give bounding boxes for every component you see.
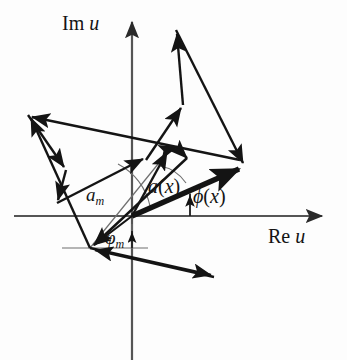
label-a-paren-open: ( bbox=[158, 175, 165, 197]
axis-label-real: Re u bbox=[268, 226, 305, 246]
chain-segment bbox=[176, 30, 243, 163]
axis-label-imaginary: Im u bbox=[62, 13, 99, 33]
label-partial-amplitude: am bbox=[86, 185, 104, 207]
label-resultant-phase: ϕ(x) bbox=[193, 186, 226, 206]
chain-segment bbox=[58, 170, 66, 200]
label-am-base: a bbox=[86, 184, 96, 205]
label-phi-arg: x bbox=[210, 185, 219, 207]
label-phi-paren-close: ) bbox=[219, 185, 226, 207]
axis-label-re-variable: u bbox=[295, 225, 305, 247]
axis-label-re-prefix: Re bbox=[268, 225, 290, 247]
label-phim-base: φ bbox=[105, 227, 116, 248]
chain-segment bbox=[31, 118, 90, 248]
label-a-paren-close: ) bbox=[174, 175, 181, 197]
chain-segment bbox=[32, 117, 240, 160]
chain-segment bbox=[95, 250, 214, 277]
label-a-base: a bbox=[148, 175, 158, 197]
label-a-arg: x bbox=[165, 175, 174, 197]
axis-label-im-variable: u bbox=[89, 12, 99, 34]
figure-root: Im u Re u a(x) ϕ(x) am φm bbox=[0, 0, 347, 360]
partial-vector-chain bbox=[28, 30, 243, 277]
axis-label-im-prefix: Im bbox=[62, 12, 84, 34]
label-partial-phase: φm bbox=[105, 228, 124, 250]
label-resultant-amplitude: a(x) bbox=[148, 176, 180, 196]
label-am-subscript: m bbox=[96, 194, 105, 208]
chain-segment bbox=[146, 108, 181, 160]
label-phi-base: ϕ bbox=[193, 185, 203, 207]
label-phim-subscript: m bbox=[116, 237, 125, 251]
